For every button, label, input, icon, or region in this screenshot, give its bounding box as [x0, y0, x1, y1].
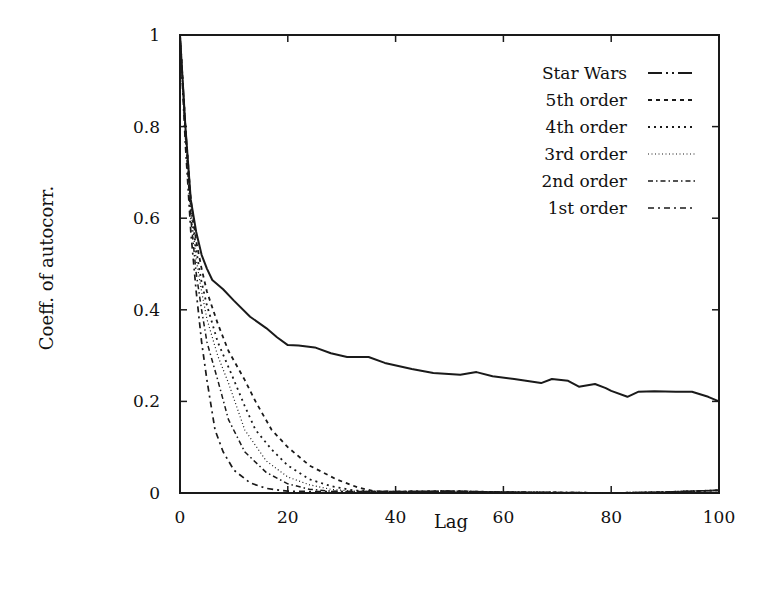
series-line-3rd-order	[180, 35, 719, 493]
legend: Star Wars5th order4th order3rd order2nd …	[542, 63, 696, 218]
legend-label: 4th order	[546, 117, 628, 137]
x-tick-label: 40	[385, 507, 407, 527]
y-axis-ticks: 00.20.40.60.81	[133, 25, 719, 503]
y-tick-label: 0.4	[133, 300, 160, 320]
y-axis-title: Coeff. of autocorr.	[36, 186, 57, 350]
plot-border	[180, 35, 719, 493]
x-axis-title: Lag	[434, 511, 468, 532]
y-tick-label: 0.2	[133, 391, 160, 411]
x-tick-label: 60	[493, 507, 515, 527]
x-tick-label: 0	[175, 507, 186, 527]
series-line-2nd-order	[180, 35, 719, 493]
x-tick-label: 100	[703, 507, 735, 527]
y-tick-label: 1	[149, 25, 160, 45]
series-line-1st-order	[180, 35, 719, 493]
plot-frame	[180, 35, 719, 493]
legend-label: 1st order	[548, 198, 628, 218]
x-axis-ticks: 020406080100	[175, 35, 736, 527]
x-tick-label: 20	[277, 507, 299, 527]
legend-label: 2nd order	[542, 171, 628, 191]
series-layer	[180, 35, 719, 493]
y-tick-label: 0.8	[133, 117, 160, 137]
autocorrelation-chart: 020406080100 00.20.40.60.81 Lag Coeff. o…	[0, 0, 770, 589]
y-tick-label: 0	[149, 483, 160, 503]
y-tick-label: 0.6	[133, 208, 160, 228]
legend-label: 5th order	[546, 90, 628, 110]
x-tick-label: 80	[600, 507, 622, 527]
series-line-5th-order	[180, 35, 719, 493]
series-line-star-wars	[180, 35, 719, 401]
series-line-4th-order	[180, 35, 719, 493]
legend-label: 3rd order	[544, 144, 628, 164]
legend-label: Star Wars	[542, 63, 627, 83]
